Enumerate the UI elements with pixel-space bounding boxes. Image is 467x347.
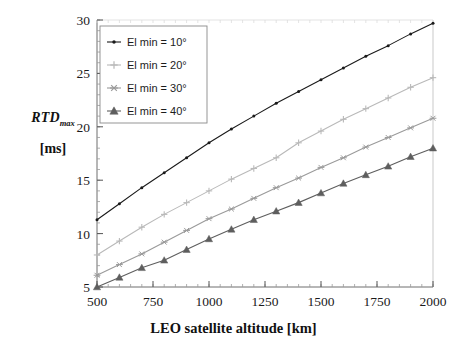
data-marker-dot bbox=[364, 55, 367, 58]
legend: El min = 10°El min = 20°El min = 30°El m… bbox=[100, 26, 207, 123]
data-marker-triangle bbox=[317, 189, 324, 195]
data-marker-dot bbox=[252, 115, 255, 118]
y-axis-tick-label: 30 bbox=[77, 13, 91, 28]
data-marker-dot bbox=[432, 22, 435, 25]
x-axis-tick-label: 2000 bbox=[420, 294, 447, 309]
y-axis-unit: [ms] bbox=[14, 141, 92, 157]
y-axis-tick-label: 5 bbox=[83, 280, 90, 295]
y-axis-tick-label: 10 bbox=[77, 227, 91, 242]
y-axis-title-main: RTD bbox=[31, 110, 60, 125]
data-marker-triangle bbox=[205, 235, 212, 241]
data-marker-triangle bbox=[295, 199, 302, 205]
data-marker-dot bbox=[112, 40, 115, 43]
data-marker-triangle bbox=[385, 163, 392, 169]
y-axis-tick-label: 15 bbox=[77, 173, 91, 188]
chart-plot-area: 5007501000125015001750200051015202530El … bbox=[0, 0, 467, 347]
data-marker-dot bbox=[163, 171, 166, 174]
data-marker-triangle bbox=[228, 226, 235, 232]
chart-figure: 5007501000125015001750200051015202530El … bbox=[0, 0, 467, 347]
x-axis-tick-label: 500 bbox=[87, 294, 108, 309]
data-marker-dot bbox=[185, 156, 188, 159]
data-marker-dot bbox=[275, 102, 278, 105]
legend-label-4[interactable]: El min = 40° bbox=[127, 105, 187, 117]
data-marker-triangle bbox=[429, 145, 436, 151]
data-marker-dot bbox=[118, 202, 121, 205]
legend-label-2[interactable]: El min = 20° bbox=[127, 59, 187, 71]
data-marker-dot bbox=[140, 186, 143, 189]
data-marker-dot bbox=[320, 78, 323, 81]
data-marker-dot bbox=[387, 44, 390, 47]
y-axis-title-subscript: max bbox=[60, 118, 75, 128]
data-marker-dot bbox=[297, 90, 300, 93]
x-axis-tick-label: 1250 bbox=[252, 294, 279, 309]
data-marker-dot bbox=[409, 32, 412, 35]
x-axis-tick-label: 750 bbox=[143, 294, 164, 309]
y-axis-title: RTDmax bbox=[14, 110, 92, 128]
series-3 bbox=[94, 116, 437, 278]
data-marker-dot bbox=[96, 218, 99, 221]
legend-label-1[interactable]: El min = 10° bbox=[127, 36, 187, 48]
data-marker-dot bbox=[230, 127, 233, 130]
series-line bbox=[97, 148, 433, 287]
series-line bbox=[97, 118, 433, 275]
data-marker-triangle bbox=[161, 257, 168, 263]
data-marker-triangle bbox=[183, 246, 190, 252]
data-marker-dot bbox=[208, 141, 211, 144]
y-axis-tick-label: 25 bbox=[77, 66, 91, 81]
series-4 bbox=[93, 145, 436, 290]
x-axis-tick-label: 1000 bbox=[196, 294, 223, 309]
legend-label-3[interactable]: El min = 30° bbox=[127, 82, 187, 94]
data-marker-dot bbox=[342, 67, 345, 70]
x-axis-title: LEO satellite altitude [km] bbox=[0, 320, 467, 337]
x-axis-tick-label: 1500 bbox=[308, 294, 335, 309]
data-marker-triangle bbox=[116, 274, 123, 280]
x-axis-tick-label: 1750 bbox=[364, 294, 391, 309]
